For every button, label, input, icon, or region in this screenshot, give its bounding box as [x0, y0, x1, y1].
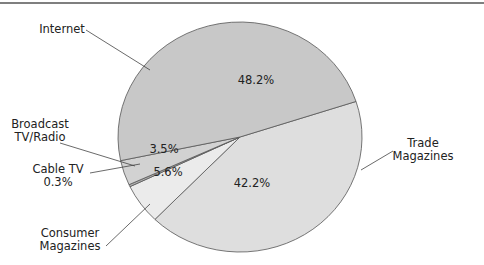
- leader-line-internet: [86, 30, 150, 70]
- category-label-consumer-magazines: Magazines: [40, 239, 101, 253]
- category-label-broadcast-tv-radio: TV/Radio: [13, 130, 65, 144]
- category-label-cable-tv: Cable TV: [32, 162, 83, 176]
- category-label-broadcast-tv-radio: Broadcast: [11, 117, 69, 131]
- category-label-trade-magazines: Magazines: [393, 149, 454, 163]
- category-label-cable-tv: 0.3%: [43, 175, 72, 189]
- category-label-consumer-magazines: Consumer: [41, 226, 100, 240]
- data-label-trade-magazines: 42.2%: [234, 176, 271, 190]
- category-label-internet: Internet: [39, 22, 85, 36]
- data-label-broadcast-tv-radio: 3.5%: [149, 142, 178, 156]
- leader-line-trade-magazines: [361, 151, 393, 170]
- leader-line-consumer-magazines: [106, 204, 150, 246]
- category-label-trade-magazines: Trade: [406, 136, 439, 150]
- data-label-consumer-magazines: 5.6%: [153, 165, 182, 179]
- pie-chart: 48.2%42.2%5.6%3.5%InternetTradeMagazines…: [0, 0, 484, 265]
- data-label-internet: 48.2%: [238, 73, 275, 87]
